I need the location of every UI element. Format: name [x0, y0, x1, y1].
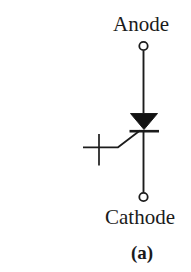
anode-terminal-icon	[139, 42, 147, 50]
thyristor-triangle-icon	[131, 114, 158, 130]
figure-canvas: Anode Cathode (a)	[0, 0, 191, 272]
figure-caption: (a)	[131, 243, 153, 262]
gate-lead-icon	[83, 131, 140, 148]
cathode-terminal-icon	[139, 193, 147, 201]
thyristor-symbol-icon	[0, 0, 191, 272]
cathode-label: Cathode	[105, 207, 175, 228]
